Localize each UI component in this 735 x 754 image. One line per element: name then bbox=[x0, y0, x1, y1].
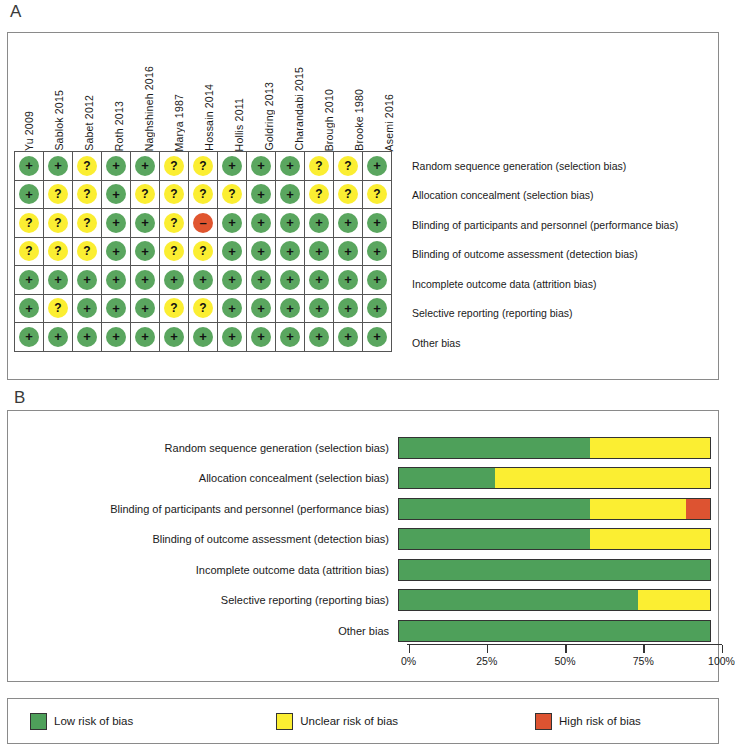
risk-of-bias-cell[interactable] bbox=[159, 208, 189, 238]
risk-of-bias-cell[interactable] bbox=[101, 208, 131, 238]
risk-of-bias-cell[interactable] bbox=[333, 208, 363, 238]
risk-of-bias-cell[interactable] bbox=[159, 151, 189, 181]
risk-of-bias-cell[interactable] bbox=[246, 322, 276, 352]
risk-of-bias-cell[interactable] bbox=[362, 180, 392, 210]
risk-of-bias-cell[interactable] bbox=[246, 151, 276, 181]
risk-of-bias-cell[interactable] bbox=[275, 208, 305, 238]
risk-of-bias-cell[interactable] bbox=[217, 294, 247, 324]
risk-of-bias-cell[interactable] bbox=[362, 151, 392, 181]
risk-of-bias-cell[interactable] bbox=[333, 151, 363, 181]
risk-of-bias-cell[interactable] bbox=[362, 265, 392, 295]
judgement-low-icon bbox=[280, 156, 300, 176]
risk-of-bias-cell[interactable] bbox=[333, 237, 363, 267]
risk-of-bias-cell[interactable] bbox=[43, 322, 73, 352]
risk-of-bias-cell[interactable] bbox=[14, 208, 44, 238]
risk-of-bias-cell[interactable] bbox=[188, 322, 218, 352]
risk-of-bias-cell[interactable] bbox=[217, 208, 247, 238]
risk-of-bias-cell[interactable] bbox=[188, 180, 218, 210]
risk-of-bias-cell[interactable] bbox=[217, 151, 247, 181]
risk-of-bias-cell[interactable] bbox=[275, 237, 305, 267]
risk-of-bias-cell[interactable] bbox=[275, 294, 305, 324]
risk-of-bias-cell[interactable] bbox=[333, 322, 363, 352]
judgement-unclear-icon bbox=[309, 156, 329, 176]
risk-of-bias-cell[interactable] bbox=[246, 237, 276, 267]
risk-of-bias-cell[interactable] bbox=[304, 237, 334, 267]
risk-of-bias-cell[interactable] bbox=[217, 265, 247, 295]
risk-of-bias-cell[interactable] bbox=[362, 322, 392, 352]
risk-of-bias-cell[interactable] bbox=[188, 265, 218, 295]
risk-of-bias-cell[interactable] bbox=[304, 180, 334, 210]
risk-of-bias-cell[interactable] bbox=[130, 265, 160, 295]
risk-of-bias-cell[interactable] bbox=[362, 294, 392, 324]
risk-of-bias-cell[interactable] bbox=[304, 208, 334, 238]
risk-of-bias-cell[interactable] bbox=[101, 237, 131, 267]
risk-of-bias-cell[interactable] bbox=[72, 208, 102, 238]
risk-of-bias-cell[interactable] bbox=[130, 151, 160, 181]
risk-of-bias-cell[interactable] bbox=[188, 294, 218, 324]
risk-of-bias-cell[interactable] bbox=[101, 322, 131, 352]
bar-track bbox=[398, 467, 711, 489]
risk-of-bias-cell[interactable] bbox=[14, 265, 44, 295]
risk-of-bias-cell[interactable] bbox=[130, 294, 160, 324]
risk-of-bias-cell[interactable] bbox=[217, 180, 247, 210]
risk-of-bias-cell[interactable] bbox=[130, 180, 160, 210]
risk-of-bias-cell[interactable] bbox=[14, 322, 44, 352]
risk-of-bias-cell[interactable] bbox=[101, 265, 131, 295]
risk-of-bias-cell[interactable] bbox=[304, 322, 334, 352]
risk-of-bias-cell[interactable] bbox=[130, 237, 160, 267]
risk-of-bias-cell[interactable] bbox=[188, 208, 218, 238]
risk-of-bias-cell[interactable] bbox=[72, 322, 102, 352]
risk-of-bias-graph-panel: Random sequence generation (selection bi… bbox=[7, 410, 719, 682]
risk-of-bias-cell[interactable] bbox=[275, 265, 305, 295]
risk-of-bias-cell[interactable] bbox=[72, 180, 102, 210]
risk-of-bias-cell[interactable] bbox=[130, 322, 160, 352]
risk-of-bias-cell[interactable] bbox=[275, 180, 305, 210]
risk-of-bias-cell[interactable] bbox=[101, 151, 131, 181]
risk-of-bias-cell[interactable] bbox=[159, 237, 189, 267]
risk-of-bias-cell[interactable] bbox=[72, 265, 102, 295]
risk-of-bias-cell[interactable] bbox=[362, 208, 392, 238]
judgement-unclear-icon bbox=[19, 213, 39, 233]
risk-of-bias-cell[interactable] bbox=[43, 294, 73, 324]
risk-of-bias-cell[interactable] bbox=[275, 151, 305, 181]
risk-of-bias-cell[interactable] bbox=[130, 208, 160, 238]
risk-of-bias-cell[interactable] bbox=[72, 237, 102, 267]
risk-of-bias-cell[interactable] bbox=[43, 237, 73, 267]
risk-of-bias-cell[interactable] bbox=[101, 180, 131, 210]
risk-of-bias-cell[interactable] bbox=[14, 151, 44, 181]
risk-of-bias-cell[interactable] bbox=[188, 151, 218, 181]
risk-of-bias-cell[interactable] bbox=[217, 237, 247, 267]
risk-of-bias-cell[interactable] bbox=[304, 294, 334, 324]
risk-of-bias-cell[interactable] bbox=[14, 237, 44, 267]
risk-of-bias-cell[interactable] bbox=[333, 294, 363, 324]
domain-label-column: Random sequence generation (selection bi… bbox=[412, 151, 678, 358]
risk-of-bias-cell[interactable] bbox=[14, 180, 44, 210]
risk-of-bias-cell[interactable] bbox=[159, 322, 189, 352]
risk-of-bias-cell[interactable] bbox=[246, 265, 276, 295]
risk-of-bias-cell[interactable] bbox=[217, 322, 247, 352]
bar-segment-low bbox=[399, 560, 710, 580]
risk-of-bias-cell[interactable] bbox=[304, 151, 334, 181]
risk-of-bias-cell[interactable] bbox=[333, 180, 363, 210]
risk-of-bias-cell[interactable] bbox=[72, 151, 102, 181]
risk-of-bias-cell[interactable] bbox=[188, 237, 218, 267]
risk-of-bias-cell[interactable] bbox=[304, 265, 334, 295]
judgement-low-icon bbox=[251, 213, 271, 233]
risk-of-bias-cell[interactable] bbox=[159, 180, 189, 210]
risk-of-bias-cell[interactable] bbox=[43, 208, 73, 238]
risk-of-bias-cell[interactable] bbox=[246, 294, 276, 324]
risk-of-bias-cell[interactable] bbox=[246, 208, 276, 238]
risk-of-bias-cell[interactable] bbox=[333, 265, 363, 295]
risk-of-bias-cell[interactable] bbox=[362, 237, 392, 267]
risk-of-bias-cell[interactable] bbox=[275, 322, 305, 352]
bar-segment-low bbox=[399, 468, 495, 488]
risk-of-bias-cell[interactable] bbox=[72, 294, 102, 324]
risk-of-bias-cell[interactable] bbox=[43, 151, 73, 181]
risk-of-bias-cell[interactable] bbox=[159, 294, 189, 324]
risk-of-bias-cell[interactable] bbox=[43, 265, 73, 295]
risk-of-bias-cell[interactable] bbox=[101, 294, 131, 324]
risk-of-bias-cell[interactable] bbox=[159, 265, 189, 295]
risk-of-bias-cell[interactable] bbox=[14, 294, 44, 324]
risk-of-bias-cell[interactable] bbox=[43, 180, 73, 210]
risk-of-bias-cell[interactable] bbox=[246, 180, 276, 210]
